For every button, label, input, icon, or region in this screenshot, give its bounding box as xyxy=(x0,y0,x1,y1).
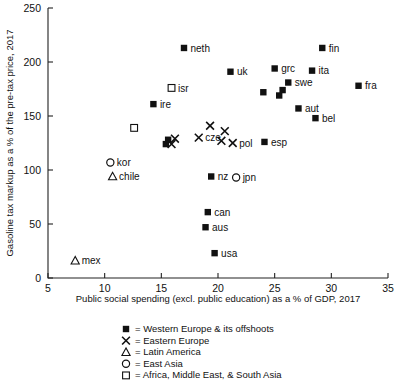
data-point-aus xyxy=(202,224,208,230)
x-tick-label: 5 xyxy=(45,282,51,294)
data-point-0-8 xyxy=(260,89,266,95)
point-label-bel: bel xyxy=(322,113,335,124)
point-label-can: can xyxy=(214,207,230,218)
data-point-1-0 xyxy=(206,122,214,130)
point-label-aut: aut xyxy=(305,103,319,114)
x-tick-label: 35 xyxy=(382,282,394,294)
data-point-grc xyxy=(271,65,277,71)
data-point-0-10 xyxy=(279,87,285,93)
data-point-pol xyxy=(229,139,237,147)
y-tick-label: 50 xyxy=(29,218,41,230)
data-point-usa xyxy=(211,250,217,256)
data-point-bel xyxy=(312,115,318,121)
data-point-fra xyxy=(355,83,361,89)
x-axis-title: Public social spending (excl. public edu… xyxy=(76,293,360,304)
point-label-aus: aus xyxy=(212,222,228,233)
point-label-chile: chile xyxy=(119,171,140,182)
data-point-esp xyxy=(261,139,267,145)
legend-label-3: = East Asia xyxy=(135,358,184,369)
data-point-chile xyxy=(109,172,117,180)
point-label-grc: grc xyxy=(281,63,295,74)
y-tick-label: 100 xyxy=(23,164,41,176)
data-point-fin xyxy=(319,45,325,51)
point-label-usa: usa xyxy=(221,248,238,259)
chart-svg: 0501001502002505101520253035Public socia… xyxy=(0,0,408,386)
data-point-kor xyxy=(107,159,114,166)
legend-marker-4 xyxy=(123,372,130,379)
point-label-isr: isr xyxy=(178,83,189,94)
point-label-mex: mex xyxy=(82,255,101,266)
legend-label-0: = Western Europe & its offshoots xyxy=(135,323,274,334)
y-tick-label: 250 xyxy=(23,2,41,14)
legend-marker-3 xyxy=(122,360,129,367)
scatter-chart: 0501001502002505101520253035Public socia… xyxy=(0,0,408,386)
data-point-ita xyxy=(309,67,315,73)
y-tick-label: 0 xyxy=(35,272,41,284)
legend-marker-1 xyxy=(122,337,130,345)
point-label-fin: fin xyxy=(329,43,340,54)
data-point-ire xyxy=(150,101,156,107)
point-label-jpn: jpn xyxy=(242,172,256,183)
point-label-kor: kor xyxy=(117,157,132,168)
data-point-uk xyxy=(227,69,233,75)
data-point-nz xyxy=(208,173,214,179)
data-point-4-1 xyxy=(131,124,138,131)
data-point-swe xyxy=(285,79,291,85)
legend-label-1: = Eastern Europe xyxy=(135,335,209,346)
point-label-ita: ita xyxy=(319,65,330,76)
legend-marker-2 xyxy=(122,348,130,356)
legend-marker-0 xyxy=(123,326,129,332)
data-point-cze xyxy=(195,134,203,142)
data-point-mex xyxy=(71,257,79,265)
point-label-ire: ire xyxy=(160,99,172,110)
y-axis-title: Gasoline tax markup as a % of the pre-ta… xyxy=(4,29,15,256)
point-label-fra: fra xyxy=(365,80,377,91)
point-label-neth: neth xyxy=(191,43,210,54)
data-point-1-2 xyxy=(221,127,229,135)
point-label-pol: pol xyxy=(239,138,252,149)
point-label-nz: nz xyxy=(218,171,229,182)
legend-label-2: = Latin America xyxy=(135,346,201,357)
point-label-swe: swe xyxy=(295,77,313,88)
data-point-aut xyxy=(295,105,301,111)
point-label-uk: uk xyxy=(237,66,249,77)
data-point-can xyxy=(205,209,211,215)
data-point-isr xyxy=(168,85,175,92)
data-point-neth xyxy=(181,45,187,51)
data-point-jpn xyxy=(233,174,240,181)
y-tick-label: 150 xyxy=(23,110,41,122)
y-tick-label: 200 xyxy=(23,56,41,68)
legend-label-4: = Africa, Middle East, & South Asia xyxy=(135,369,282,380)
point-label-esp: esp xyxy=(271,137,288,148)
